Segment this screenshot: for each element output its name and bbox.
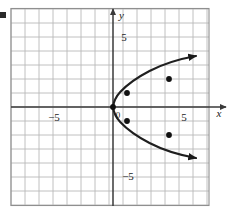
point-lower-1 [124, 118, 130, 124]
y-tick-label-positive-5: 5 [121, 31, 127, 43]
x-axis-label: x [216, 107, 222, 119]
y-tick-label-negative-5: −5 [122, 170, 134, 182]
origin-label: 0 [116, 110, 121, 120]
point-lower-2 [166, 132, 172, 138]
y-axis-label: y [118, 9, 124, 21]
point-upper-1 [124, 90, 130, 96]
graph-screenshot: y x −5 5 5 −5 0 [0, 0, 236, 214]
point-upper-2 [166, 76, 172, 82]
coordinate-plane: y x −5 5 5 −5 0 [0, 0, 236, 214]
x-tick-label-positive-5: 5 [181, 111, 187, 123]
x-tick-label-negative-5: −5 [48, 111, 60, 123]
